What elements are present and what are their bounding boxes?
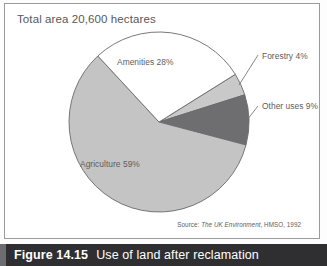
pie-label-other-uses: Other uses 9% bbox=[262, 101, 318, 111]
pie-label-agriculture: Agriculture 59% bbox=[80, 159, 140, 169]
figure-number: Figure 14.15 bbox=[14, 248, 88, 262]
figure-caption-bar: Figure 14.15 Use of land after reclamati… bbox=[0, 244, 327, 266]
pie-chart bbox=[0, 0, 327, 240]
caption-accent-block bbox=[0, 244, 6, 266]
pie-label-forestry: Forestry 4% bbox=[262, 51, 308, 61]
pie-label-amenities: Amenities 28% bbox=[117, 57, 174, 67]
figure-caption-text: Use of land after reclamation bbox=[96, 248, 259, 262]
figure-container: Total area 20,600 hectares Source: The U… bbox=[0, 0, 327, 266]
leader-line-forestry bbox=[239, 55, 258, 85]
